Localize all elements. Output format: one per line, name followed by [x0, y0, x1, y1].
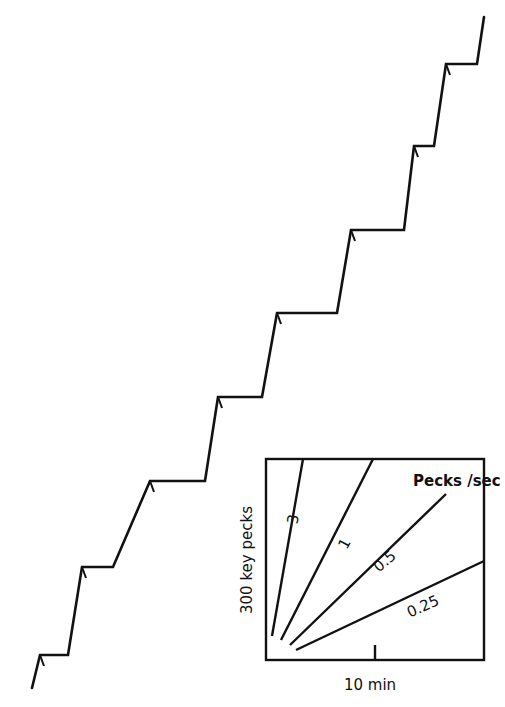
- cumulative-record-line: [32, 17, 484, 688]
- cumulative-record-figure: 310.50.25 Pecks /sec 10 min 300 key peck…: [0, 0, 505, 707]
- hatch-mark: [351, 230, 355, 241]
- hatch-mark: [277, 313, 281, 324]
- rate-label-0-5: 0.5: [370, 547, 400, 576]
- y-axis-label: 300 key pecks: [238, 506, 256, 614]
- x-axis-label: 10 min: [344, 676, 396, 694]
- hatch-mark: [218, 397, 222, 408]
- slope-reference-inset: 310.50.25 Pecks /sec 10 min 300 key peck…: [238, 459, 501, 694]
- hatch-mark: [40, 655, 44, 666]
- rate-line-1: [281, 459, 373, 640]
- rate-line-0-5: [290, 494, 446, 645]
- rate-label-3: 3: [283, 513, 302, 526]
- hatch-mark: [446, 64, 450, 75]
- hatch-mark: [82, 567, 86, 578]
- record-path: [32, 17, 484, 688]
- rate-line-3: [272, 459, 303, 636]
- rate-line-0-25: [296, 561, 484, 650]
- legend-title: Pecks /sec: [413, 472, 501, 490]
- hatch-mark: [150, 481, 154, 492]
- rate-label-1: 1: [334, 535, 354, 552]
